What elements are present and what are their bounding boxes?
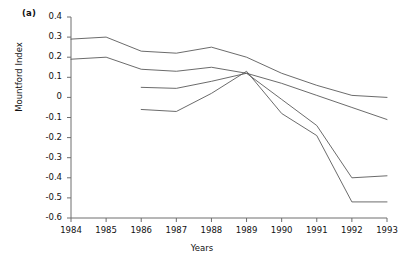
x-tick-label: 1984	[51, 226, 91, 235]
x-tick-label: 1986	[121, 226, 161, 235]
x-tick-label: 1987	[156, 226, 196, 235]
series-line	[71, 37, 387, 97]
y-tick-label: -0.5	[28, 193, 62, 202]
y-tick-label: -0.6	[28, 213, 62, 222]
y-tick-label: -0.1	[28, 113, 62, 122]
y-tick-label: 0.3	[28, 32, 62, 41]
y-tick-label: -0.4	[28, 173, 62, 182]
x-tick-label: 1993	[367, 226, 404, 235]
x-tick-label: 1985	[86, 226, 126, 235]
y-tick-label: -0.3	[28, 153, 62, 162]
y-tick-label: 0.4	[28, 12, 62, 21]
y-tick-label: 0.2	[28, 52, 62, 61]
chart-figure: (a) Mountford Index Years 0.40.30.20.10-…	[0, 0, 404, 261]
x-tick-label: 1990	[262, 226, 302, 235]
x-tick-label: 1989	[227, 226, 267, 235]
x-tick-label: 1992	[332, 226, 372, 235]
series-line	[71, 57, 387, 119]
x-tick-label: 1988	[191, 226, 231, 235]
series-line	[141, 71, 387, 202]
series-line	[141, 73, 387, 178]
y-tick-label: 0	[28, 92, 62, 101]
x-tick-label: 1991	[297, 226, 337, 235]
y-tick-label: -0.2	[28, 133, 62, 142]
y-tick-label: 0.1	[28, 72, 62, 81]
